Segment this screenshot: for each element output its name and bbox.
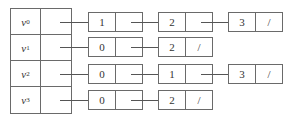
node-next-null: / — [186, 91, 212, 109]
pointer-line — [60, 100, 88, 101]
vertex-label: v2 — [11, 61, 41, 86]
pointer-line — [60, 22, 88, 23]
pointer-line — [131, 22, 158, 23]
pointer-line — [131, 47, 158, 48]
edge-node: 3 / — [228, 12, 283, 32]
node-next-null: / — [256, 65, 282, 83]
edge-node: 3 / — [228, 64, 283, 84]
node-adjvex: 2 — [159, 38, 186, 56]
node-adjvex: 2 — [159, 13, 186, 31]
node-next-null: / — [186, 38, 212, 56]
node-adjvex: 1 — [159, 65, 186, 83]
node-adjvex: 3 — [229, 13, 256, 31]
vertex-row-v1: v1 — [11, 35, 71, 61]
edge-node: 2 / — [158, 90, 213, 110]
vertex-label: v3 — [11, 87, 41, 113]
vertex-label: v0 — [11, 9, 41, 34]
node-adjvex: 0 — [89, 38, 116, 56]
node-adjvex: 0 — [89, 91, 116, 109]
pointer-line — [60, 74, 88, 75]
edge-node: 2 / — [158, 37, 213, 57]
node-adjvex: 1 — [89, 13, 116, 31]
node-adjvex: 3 — [229, 65, 256, 83]
node-adjvex: 2 — [159, 91, 186, 109]
pointer-line — [201, 22, 228, 23]
pointer-line — [60, 47, 88, 48]
vertex-table: v0 v1 v2 v3 — [10, 8, 72, 114]
vertex-label: v1 — [11, 35, 41, 60]
node-next-null: / — [256, 13, 282, 31]
pointer-line — [131, 74, 158, 75]
node-adjvex: 0 — [89, 65, 116, 83]
pointer-line — [131, 100, 158, 101]
pointer-line — [201, 74, 228, 75]
